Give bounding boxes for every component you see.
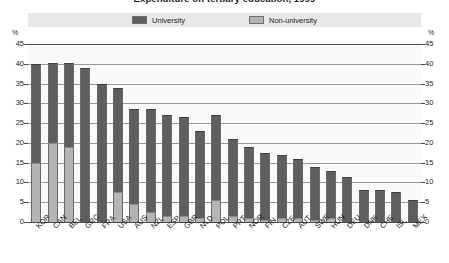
- y-tick-label-left-20: 20: [6, 139, 24, 147]
- legend-items: University Non-university: [28, 13, 421, 27]
- y-tick-label-right-25: 25: [425, 119, 443, 127]
- bar-series-container: [28, 44, 421, 222]
- bar-segment-university: [179, 117, 189, 216]
- legend-item-university: University: [132, 16, 185, 25]
- y-tick-label-right-20: 20: [425, 139, 443, 147]
- bar-segment-university: [64, 63, 74, 147]
- y-tick-label-right-10: 10: [425, 178, 443, 186]
- bar-AUT[interactable]: [293, 159, 303, 222]
- bar-CZE[interactable]: [277, 155, 287, 222]
- bar-segment-non-university: [31, 163, 41, 222]
- y-tick-label-left-35: 35: [6, 80, 24, 88]
- bar-segment-university: [31, 64, 41, 163]
- y-tick-label-left-10: 10: [6, 178, 24, 186]
- bar-segment-university: [113, 88, 123, 192]
- bar-USA[interactable]: [113, 88, 123, 222]
- legend-swatch-non-university-icon: [249, 16, 264, 24]
- bar-segment-university: [260, 153, 270, 220]
- bar-segment-university: [146, 109, 156, 212]
- y-tick-mark: [421, 163, 425, 164]
- bar-segment-university: [310, 167, 320, 220]
- y-axis-unit-right: %: [428, 29, 434, 36]
- y-tick-mark: [421, 103, 425, 104]
- y-tick-label-right-45: 45: [425, 40, 443, 48]
- bar-PRT[interactable]: [228, 139, 238, 222]
- bar-segment-university: [211, 115, 221, 200]
- bar-segment-university: [162, 115, 172, 216]
- y-tick-mark: [421, 182, 425, 183]
- y-tick-label-left-25: 25: [6, 119, 24, 127]
- bar-POL[interactable]: [211, 115, 221, 222]
- legend-label-university: University: [152, 16, 185, 25]
- y-tick-label-left-40: 40: [6, 60, 24, 68]
- y-tick-mark: [421, 123, 425, 124]
- legend-item-non-university: Non-university: [249, 16, 317, 25]
- bar-segment-university: [228, 139, 238, 216]
- y-tick-label-left-30: 30: [6, 99, 24, 107]
- legend-label-non-university: Non-university: [269, 16, 317, 25]
- y-tick-mark: [421, 44, 425, 45]
- bar-segment-university: [195, 131, 205, 218]
- bar-GBR[interactable]: [179, 117, 189, 222]
- bar-segment-non-university: [48, 143, 58, 222]
- x-axis-labels: KORCANBELGRCFRAUSAAUSNZLESPGBRNLDPOLPRTN…: [28, 224, 421, 263]
- y-tick-label-left-15: 15: [6, 159, 24, 167]
- y-tick-mark: [421, 143, 425, 144]
- y-tick-label-left-0: 0: [6, 218, 24, 226]
- bar-segment-university: [129, 109, 139, 204]
- bar-CAN[interactable]: [48, 63, 58, 222]
- y-tick-label-left-45: 45: [6, 40, 24, 48]
- bar-KOR[interactable]: [31, 64, 41, 222]
- legend-swatch-university-icon: [132, 16, 147, 24]
- bar-SWE[interactable]: [310, 167, 320, 222]
- bar-GRC[interactable]: [80, 68, 90, 222]
- bar-FRA[interactable]: [97, 84, 107, 222]
- bar-NOR[interactable]: [244, 147, 254, 222]
- y-tick-mark: [421, 64, 425, 65]
- bar-segment-non-university: [64, 147, 74, 222]
- bar-BEL[interactable]: [64, 63, 74, 222]
- chart-root: Expenditure on tertiary education, 1999 …: [0, 0, 449, 263]
- y-tick-label-right-5: 5: [425, 198, 443, 206]
- y-tick-label-left-5: 5: [6, 198, 24, 206]
- bar-NLD[interactable]: [195, 131, 205, 222]
- y-tick-mark: [421, 202, 425, 203]
- y-tick-mark: [421, 84, 425, 85]
- y-tick-label-right-15: 15: [425, 159, 443, 167]
- bar-NZL[interactable]: [146, 109, 156, 222]
- bar-segment-university: [244, 147, 254, 218]
- bar-segment-university: [326, 171, 336, 218]
- chart-legend: University Non-university: [28, 13, 421, 27]
- bar-segment-university: [80, 68, 90, 222]
- bar-segment-university: [293, 159, 303, 218]
- bar-segment-university: [48, 63, 58, 143]
- chart-title: Expenditure on tertiary education, 1999: [0, 0, 449, 5]
- y-tick-label-right-35: 35: [425, 80, 443, 88]
- bar-FIN[interactable]: [260, 153, 270, 222]
- bar-AUS[interactable]: [129, 109, 139, 222]
- bar-segment-university: [97, 84, 107, 222]
- y-axis-unit-left: %: [12, 29, 18, 36]
- y-tick-label-right-30: 30: [425, 99, 443, 107]
- bar-ESP[interactable]: [162, 115, 172, 222]
- bar-segment-university: [277, 155, 287, 218]
- y-tick-label-right-40: 40: [425, 60, 443, 68]
